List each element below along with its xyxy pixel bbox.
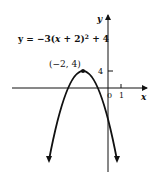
y-axis-label: y <box>96 14 103 24</box>
y-tick-label-4: 4 <box>98 67 103 76</box>
right-arrowhead-icon <box>114 156 120 163</box>
vertex-label: (−2, 4) <box>49 59 81 69</box>
parabola-curve <box>49 71 117 160</box>
parabola-graph: y = −3(x + 2)2 + 4 (−2, 4) y x 4 0 1 <box>0 0 157 179</box>
vertex-point <box>81 69 85 73</box>
x-tick-label-1: 1 <box>119 91 124 100</box>
x-axis-label: x <box>140 92 147 102</box>
equation-label: y = −3(x + 2)2 + 4 <box>17 33 109 44</box>
left-arrowhead-icon <box>46 156 52 163</box>
origin-label: 0 <box>107 91 112 100</box>
